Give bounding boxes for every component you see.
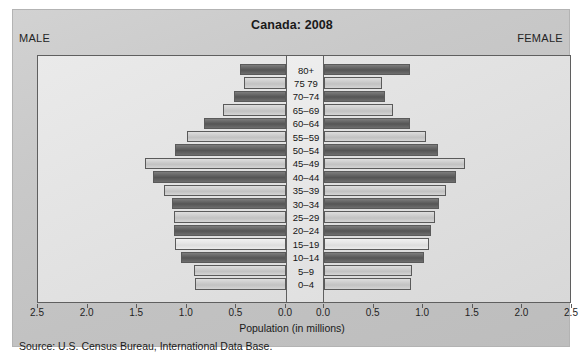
x-tick-label: 1.5 [465, 307, 479, 318]
female-bar [324, 225, 431, 236]
x-tick-label: 0.5 [228, 307, 242, 318]
male-bar [164, 185, 286, 196]
male-bar [194, 265, 286, 276]
age-group-label: 70–74 [287, 90, 325, 103]
female-bar [324, 77, 382, 88]
age-group-label: 45–49 [287, 157, 325, 170]
x-tick-label: 2.5 [564, 307, 578, 318]
female-bar [324, 64, 410, 75]
male-bar [175, 238, 286, 249]
male-bar [181, 252, 286, 263]
age-group-label: 75 79 [287, 77, 325, 90]
female-side-label: FEMALE [517, 32, 563, 44]
age-group-label: 5–9 [287, 265, 325, 278]
x-tick-label: 0.0 [278, 307, 292, 318]
source-note: Source: U.S. Census Bureau, Internationa… [19, 340, 272, 352]
age-group-label: 80+ [287, 64, 325, 77]
population-pyramid-figure: Canada: 2008 MALE FEMALE 80+75 7970–7465… [0, 0, 582, 364]
female-bar [324, 211, 435, 222]
female-bar [324, 185, 446, 196]
age-group-label: 20–24 [287, 224, 325, 237]
male-bar [195, 278, 286, 289]
female-bar [324, 238, 429, 249]
age-group-label: 0–4 [287, 278, 325, 291]
male-bar [175, 144, 286, 155]
male-bar [174, 211, 286, 222]
plot-area: 80+75 7970–7465–6960–6455–5950–5445–4940… [37, 55, 571, 303]
chart-panel: Canada: 2008 MALE FEMALE 80+75 7970–7465… [12, 9, 570, 347]
x-tick-label: 2.5 [30, 307, 44, 318]
x-tick-label: 1.5 [129, 307, 143, 318]
female-bar [324, 91, 385, 102]
male-bar [187, 131, 286, 142]
x-axis-title: Population (in millions) [13, 322, 571, 334]
male-bar [204, 118, 286, 129]
female-bar [324, 265, 412, 276]
age-group-label: 55–59 [287, 131, 325, 144]
age-group-label: 30–34 [287, 198, 325, 211]
female-bar [324, 104, 393, 115]
x-tick-label: 0.0 [316, 307, 330, 318]
male-bar [174, 225, 286, 236]
age-group-label: 65–69 [287, 104, 325, 117]
age-group-label: 10–14 [287, 251, 325, 264]
male-bar [145, 158, 286, 169]
chart-title: Canada: 2008 [13, 18, 571, 32]
female-bar [324, 171, 456, 182]
x-tick-label: 2.0 [80, 307, 94, 318]
male-bar [234, 91, 286, 102]
age-group-label: 15–19 [287, 238, 325, 251]
female-bar [324, 118, 410, 129]
female-bar [324, 278, 411, 289]
x-tick-label: 1.0 [415, 307, 429, 318]
male-bar [240, 64, 286, 75]
age-group-label: 40–44 [287, 171, 325, 184]
female-bar [324, 198, 439, 209]
female-bar [324, 131, 426, 142]
female-bar [324, 144, 438, 155]
male-bar [244, 77, 286, 88]
age-group-label: 50–54 [287, 144, 325, 157]
age-label-band: 80+75 7970–7465–6960–6455–5950–5445–4940… [286, 56, 324, 302]
x-tick-label: 2.0 [514, 307, 528, 318]
female-bar [324, 252, 424, 263]
male-bar [172, 198, 286, 209]
male-bar [223, 104, 286, 115]
male-bar [153, 171, 286, 182]
male-side-label: MALE [19, 32, 50, 44]
x-tick-label: 1.0 [179, 307, 193, 318]
age-group-label: 25–29 [287, 211, 325, 224]
female-bar [324, 158, 465, 169]
age-group-label: 35–39 [287, 184, 325, 197]
x-tick-label: 0.5 [366, 307, 380, 318]
age-group-label: 60–64 [287, 117, 325, 130]
